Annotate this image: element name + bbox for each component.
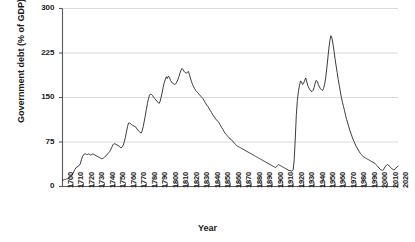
x-tick-label: 2000 <box>380 172 389 188</box>
y-tick-label: 150 <box>15 92 55 101</box>
x-tick-label: 1710 <box>76 172 85 188</box>
x-tick-label: 1920 <box>297 172 306 188</box>
chart-container: Government debt (% of GDP) Year 07515022… <box>0 0 415 242</box>
x-tick-label: 1940 <box>318 172 327 188</box>
x-tick-label: 1800 <box>171 172 180 188</box>
x-tick-label: 2020 <box>401 172 410 188</box>
x-tick-label: 1980 <box>359 172 368 188</box>
x-tick-label: 1760 <box>129 172 138 188</box>
y-tick-label: 300 <box>15 3 55 12</box>
x-tick-label: 1950 <box>328 172 337 188</box>
x-tick-label: 1840 <box>213 172 222 188</box>
x-tick-label: 1970 <box>349 172 358 188</box>
data-series-line <box>63 36 399 180</box>
x-tick-label: 1820 <box>192 172 201 188</box>
x-tick-label: 1880 <box>255 172 264 188</box>
x-tick-label: 1850 <box>223 172 232 188</box>
x-tick-label: 1790 <box>160 172 169 188</box>
x-tick-label: 1900 <box>276 172 285 188</box>
y-tick-label: 75 <box>15 137 55 146</box>
x-tick-label: 1990 <box>370 172 379 188</box>
x-tick-label: 1810 <box>181 172 190 188</box>
x-tick-label: 1860 <box>234 172 243 188</box>
x-tick-label: 1700 <box>66 172 75 188</box>
x-tick-label: 1770 <box>139 172 148 188</box>
x-tick-label: 1930 <box>307 172 316 188</box>
y-tick-label: 225 <box>15 48 55 57</box>
gridlines <box>63 9 399 187</box>
x-tick-label: 1890 <box>265 172 274 188</box>
x-tick-label: 1780 <box>150 172 159 188</box>
x-tick-label: 1870 <box>244 172 253 188</box>
x-tick-label: 2010 <box>391 172 400 188</box>
x-tick-label: 1910 <box>286 172 295 188</box>
x-tick-label: 1740 <box>108 172 117 188</box>
x-tick-label: 1830 <box>202 172 211 188</box>
x-tick-label: 1730 <box>97 172 106 188</box>
x-tick-label: 1720 <box>87 172 96 188</box>
y-tick-label: 0 <box>15 181 55 190</box>
x-tick-label: 1960 <box>338 172 347 188</box>
x-tick-label: 1750 <box>118 172 127 188</box>
plot-area <box>0 0 415 242</box>
